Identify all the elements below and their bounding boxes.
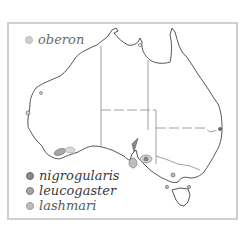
legend-item-oberon: oberon [25, 33, 84, 47]
legend-item-nigrogularis: nigrogularis [26, 169, 120, 183]
legend-label: leucogaster [39, 184, 116, 198]
mainland-coastline [28, 28, 222, 183]
nigrogularis-swatch-icon [26, 172, 34, 180]
lashmari-range-sa [129, 158, 137, 168]
nigrogularis-marker [144, 157, 148, 161]
nigrogularis-range [132, 138, 138, 152]
legend-item-lashmari: lashmari [26, 199, 96, 213]
marker-tasmania-ne [187, 185, 190, 188]
marker-victoria [171, 173, 175, 177]
oberon-swatch-icon [25, 36, 33, 44]
state-borders [101, 46, 218, 170]
legend-label: lashmari [39, 199, 96, 213]
marker-top-end [139, 44, 142, 47]
legend-label: nigrogularis [39, 169, 120, 183]
leucogaster-range [53, 147, 66, 157]
nsw-vic-border [156, 156, 200, 170]
legend-label: oberon [38, 33, 84, 47]
leucogaster-swatch-icon [26, 187, 34, 195]
oberon-marker [40, 92, 43, 95]
tasmania [172, 188, 190, 206]
lashmari-swatch-icon [26, 202, 34, 210]
qld-nsw-border [156, 128, 218, 132]
legend-item-leucogaster: leucogaster [26, 184, 116, 198]
oberon-marker [26, 111, 30, 115]
lashmari-range [65, 147, 75, 153]
marker-qld-coast [219, 128, 222, 131]
marker-bass-strait [165, 185, 168, 188]
